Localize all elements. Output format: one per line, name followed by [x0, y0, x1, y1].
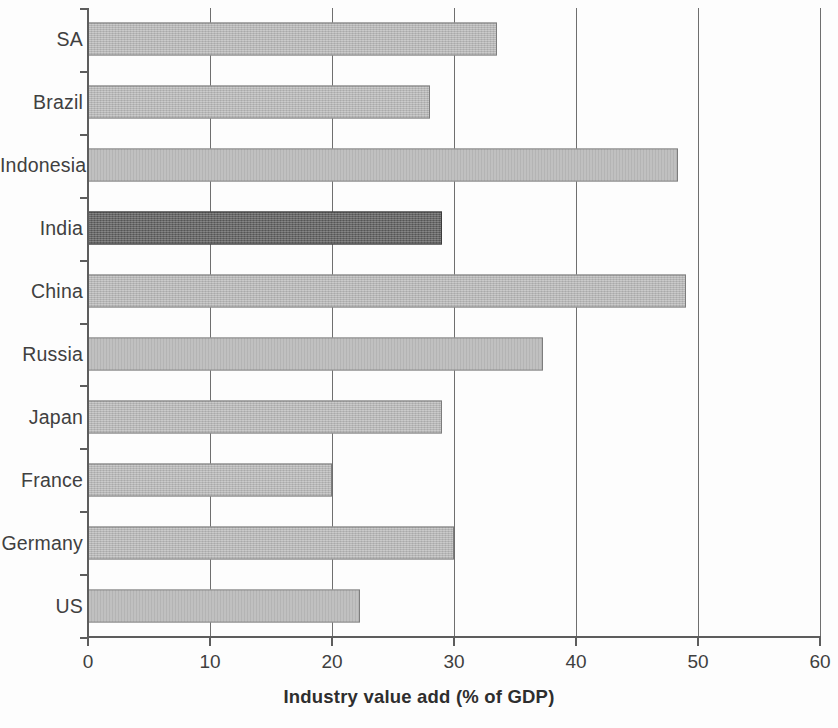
y-axis-category-label: Germany	[0, 531, 83, 554]
y-axis-category-label: India	[0, 217, 83, 240]
y-axis-category-label: Japan	[0, 405, 83, 428]
x-axis-tick-label: 0	[83, 651, 94, 673]
x-axis-tick	[453, 637, 455, 646]
gridline	[698, 8, 699, 637]
x-axis-tick-label: 20	[321, 651, 342, 673]
bar-china	[88, 275, 686, 308]
x-axis-tick-label: 30	[443, 651, 464, 673]
gridline	[576, 8, 577, 637]
gridline	[820, 8, 821, 637]
bar-japan	[88, 400, 442, 433]
y-axis-line	[87, 8, 89, 637]
y-axis-category-label: US	[0, 594, 83, 617]
y-axis-category-label: Brazil	[0, 91, 83, 114]
bar-brazil	[88, 86, 430, 119]
bar-india	[88, 212, 442, 245]
bar-france	[88, 463, 332, 496]
y-axis-category-label: SA	[0, 28, 83, 51]
x-axis-line	[88, 636, 821, 638]
y-axis-category-label: France	[0, 468, 83, 491]
x-axis-title: Industry value add (% of GDP)	[0, 686, 838, 708]
x-axis-tick	[697, 637, 699, 646]
bar-us	[88, 589, 360, 622]
y-axis-category-label: Indonesia	[0, 154, 83, 177]
x-axis-tick	[819, 637, 821, 646]
plot-area: 0102030405060SABrazilIndonesiaIndiaChina…	[0, 0, 838, 645]
x-axis-tick-label: 50	[687, 651, 708, 673]
bar-chart: 0102030405060SABrazilIndonesiaIndiaChina…	[0, 0, 838, 728]
x-axis-tick-label: 40	[565, 651, 586, 673]
bar-germany	[88, 526, 454, 559]
y-axis-tick	[80, 637, 88, 639]
x-axis-tick-label: 10	[199, 651, 220, 673]
x-axis-tick-label: 60	[809, 651, 830, 673]
bar-indonesia	[88, 149, 678, 182]
bar-russia	[88, 337, 543, 370]
y-axis-category-label: China	[0, 280, 83, 303]
x-axis-tick	[331, 637, 333, 646]
bar-sa	[88, 23, 497, 56]
x-axis-tick	[209, 637, 211, 646]
x-axis-tick	[575, 637, 577, 646]
y-axis-category-label: Russia	[0, 342, 83, 365]
